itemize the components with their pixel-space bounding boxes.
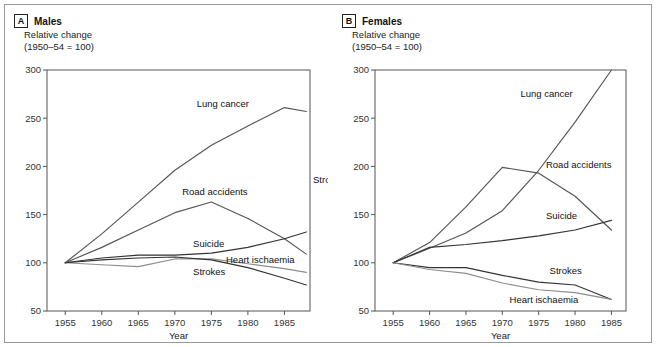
series-label-road-accidents: Road accidents bbox=[546, 159, 612, 170]
series-label-heart-ischaemia: Heart ischaemia bbox=[510, 294, 579, 305]
x-tick-label: 1965 bbox=[455, 317, 476, 328]
series-label-lung-cancer: Lung cancer bbox=[521, 88, 573, 99]
y-tick-label: 50 bbox=[358, 305, 369, 316]
x-tick-label: 1985 bbox=[274, 317, 295, 328]
y-tick-label: 200 bbox=[353, 161, 369, 172]
x-axis-title: Year bbox=[491, 330, 510, 341]
series-label-road-accidents: Road accidents bbox=[182, 186, 248, 197]
series-label-strokes-edge: Strokes bbox=[313, 174, 328, 185]
x-tick-label: 1960 bbox=[419, 317, 440, 328]
y-tick-label: 150 bbox=[353, 209, 369, 220]
x-tick-label: 1980 bbox=[565, 317, 586, 328]
y-tick-label: 100 bbox=[353, 257, 369, 268]
x-tick-label: 1965 bbox=[128, 317, 149, 328]
figure-root: A Males Relative change (1950–54 = 100) … bbox=[0, 0, 656, 347]
series-label-lung-cancer: Lung cancer bbox=[197, 98, 249, 109]
x-tick-label: 1975 bbox=[528, 317, 549, 328]
x-axis-title: Year bbox=[169, 330, 188, 341]
x-tick-label: 1985 bbox=[601, 317, 622, 328]
y-tick-label: 250 bbox=[25, 113, 41, 124]
panel-males: A Males Relative change (1950–54 = 100) … bbox=[0, 0, 328, 347]
x-tick-label: 1960 bbox=[91, 317, 112, 328]
series-line-lung-cancer bbox=[65, 108, 306, 263]
y-tick-label: 100 bbox=[25, 257, 41, 268]
series-label-heart-ischaemia: Heart ischaemia bbox=[226, 254, 295, 265]
x-tick-label: 1955 bbox=[55, 317, 76, 328]
y-tick-label: 200 bbox=[25, 161, 41, 172]
series-label-strokes: Strokes bbox=[193, 266, 225, 277]
y-tick-label: 250 bbox=[353, 113, 369, 124]
x-tick-label: 1980 bbox=[237, 317, 258, 328]
x-tick-label: 1955 bbox=[383, 317, 404, 328]
panel-a-plot: 5010015020025030019551960196519701975198… bbox=[0, 0, 328, 347]
series-label-suicide: Suicide bbox=[546, 210, 577, 221]
panel-b-plot: 5010015020025030019551960196519701975198… bbox=[328, 0, 656, 347]
series-line-suicide bbox=[393, 220, 611, 262]
y-tick-label: 300 bbox=[25, 64, 41, 75]
x-tick-label: 1975 bbox=[201, 317, 222, 328]
y-tick-label: 300 bbox=[353, 64, 369, 75]
series-label-strokes: Strokes bbox=[550, 265, 582, 276]
series-label-suicide: Suicide bbox=[193, 238, 224, 249]
y-tick-label: 150 bbox=[25, 209, 41, 220]
y-tick-label: 50 bbox=[30, 305, 41, 316]
x-tick-label: 1970 bbox=[492, 317, 513, 328]
x-tick-label: 1970 bbox=[164, 317, 185, 328]
plot-frame bbox=[47, 70, 310, 311]
panel-females: B Females Relative change (1950–54 = 100… bbox=[328, 0, 656, 347]
